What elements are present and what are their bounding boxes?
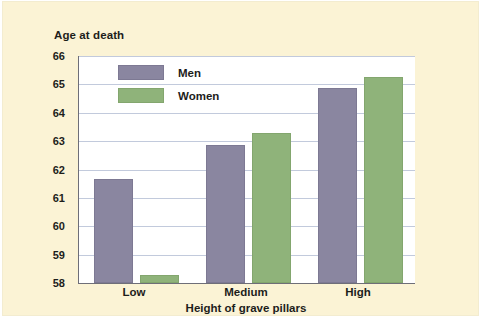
legend-item-women: Women [118, 88, 238, 103]
bar-low-men [94, 179, 133, 283]
bar-high-women [364, 77, 403, 283]
y-tick-label: 65 [53, 78, 65, 90]
bar-medium-men [206, 145, 245, 283]
legend-item-men: Men [118, 65, 238, 80]
gridline [79, 56, 415, 57]
legend-label: Men [178, 67, 201, 79]
legend: MenWomen [118, 65, 238, 111]
legend-swatch-men [118, 65, 164, 80]
chart-title: Age at death [54, 29, 124, 41]
x-axis-title: Height of grave pillars [78, 302, 414, 314]
y-tick-label: 60 [53, 220, 65, 232]
y-tick-label: 59 [53, 249, 65, 261]
x-tick-label: Medium [224, 286, 267, 298]
chart-figure: Age at death 585960616263646566 LowMediu… [3, 2, 478, 315]
y-axis: 585960616263646566 [3, 56, 73, 283]
legend-swatch-women [118, 88, 164, 103]
bar-high-men [318, 88, 357, 283]
legend-label: Women [178, 90, 219, 102]
y-tick-label: 62 [53, 164, 65, 176]
y-tick-label: 66 [53, 50, 65, 62]
y-tick-label: 61 [53, 192, 65, 204]
y-tick-label: 58 [53, 277, 65, 289]
bar-medium-women [252, 133, 291, 283]
x-tick-label: High [345, 286, 371, 298]
bar-low-women [140, 275, 179, 283]
y-tick-label: 64 [53, 107, 65, 119]
x-tick-label: Low [123, 286, 146, 298]
y-tick-label: 63 [53, 135, 65, 147]
